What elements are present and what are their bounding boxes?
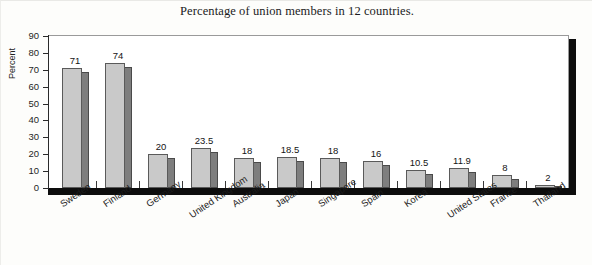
bar-side-face — [211, 152, 218, 188]
bar-side-face — [426, 174, 433, 188]
bar-value-label: 8 — [487, 162, 523, 173]
bar-front-face[interactable] — [320, 158, 340, 188]
x-axis-category-tick — [526, 181, 527, 188]
bar-front-face[interactable] — [148, 154, 168, 188]
y-axis-title: Percent — [7, 48, 17, 79]
y-axis-tick-label: 80 — [28, 47, 39, 58]
bar-front-face[interactable] — [277, 157, 297, 188]
bar-value-label: 18 — [315, 145, 351, 156]
bar-value-label: 23.5 — [186, 135, 222, 146]
bar-side-face — [469, 172, 476, 188]
bar-front-face[interactable] — [363, 161, 383, 188]
bar-side-face — [82, 72, 89, 188]
bar-side-face — [125, 67, 132, 188]
y-axis-tick-label: 50 — [28, 98, 39, 109]
bar-side-face — [297, 161, 304, 188]
y-axis-tick-label: 30 — [28, 131, 39, 142]
y-axis-tick-label: 70 — [28, 64, 39, 75]
bar-value-label: 16 — [358, 148, 394, 159]
y-axis-tick-label: 0 — [34, 182, 39, 193]
chart-title: Percentage of union members in 12 countr… — [1, 4, 592, 19]
bar-side-face — [383, 165, 390, 188]
bar-front-face[interactable] — [449, 168, 469, 188]
y-axis-tick-label: 10 — [28, 165, 39, 176]
bar-value-label: 74 — [100, 50, 136, 61]
chart-figure: Percentage of union members in 12 countr… — [0, 0, 592, 265]
y-axis-tick-label: 90 — [28, 30, 39, 41]
bar-value-label: 18.5 — [272, 144, 308, 155]
bar-front-face[interactable] — [62, 68, 82, 188]
x-axis-category-tick — [96, 181, 97, 188]
y-axis-tick-mark — [43, 188, 48, 189]
x-axis-category-tick — [311, 181, 312, 188]
x-axis-category-tick — [397, 181, 398, 188]
y-axis-tick-label: 60 — [28, 81, 39, 92]
bar-value-label: 11.9 — [444, 155, 480, 166]
x-axis-category-tick — [440, 181, 441, 188]
bar-front-face[interactable] — [191, 148, 211, 188]
bar-value-label: 10.5 — [401, 157, 437, 168]
y-axis-tick-label: 20 — [28, 148, 39, 159]
bar-value-label: 18 — [229, 145, 265, 156]
bar-front-face[interactable] — [105, 63, 125, 188]
bar-value-label: 20 — [143, 141, 179, 152]
x-axis-category-tick — [139, 181, 140, 188]
bar-value-label: 71 — [57, 55, 93, 66]
y-axis-tick-label: 40 — [28, 114, 39, 125]
plot-right-wall — [569, 39, 576, 195]
x-axis-category-tick — [268, 181, 269, 188]
plot-area: 71742023.51818.5181610.511.982 — [48, 36, 568, 188]
